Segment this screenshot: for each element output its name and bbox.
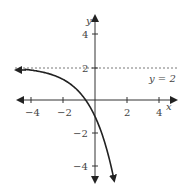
x-tick-label: −2: [57, 107, 72, 118]
y-tick-label: −4: [73, 161, 88, 172]
x-tick-label: 4: [156, 107, 162, 118]
y-tick-label: 4: [82, 29, 88, 40]
y-tick-label: −2: [73, 128, 88, 139]
graph: −4 −2 2 4 4 2 −2 −4 y x y = 2: [0, 0, 185, 191]
plot: −4 −2 2 4 4 2 −2 −4 y x y = 2: [0, 0, 185, 191]
curve: [25, 69, 115, 180]
asymptote-label: y = 2: [148, 73, 176, 84]
x-tick-label: 2: [124, 107, 130, 118]
y-tick-label: 2: [82, 63, 88, 74]
y-axis-label: y: [85, 15, 92, 26]
x-tick-label: −4: [25, 107, 40, 118]
x-axis-label: x: [166, 101, 172, 112]
